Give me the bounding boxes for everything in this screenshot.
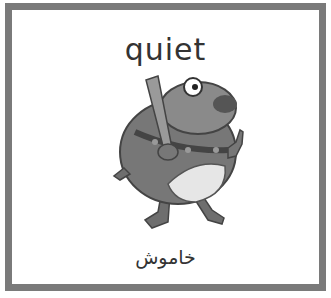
flashcard-frame: quiet خ bbox=[5, 3, 326, 291]
cartoon-dog-with-bat-icon bbox=[100, 62, 260, 237]
translated-word: خاموش bbox=[12, 246, 319, 268]
